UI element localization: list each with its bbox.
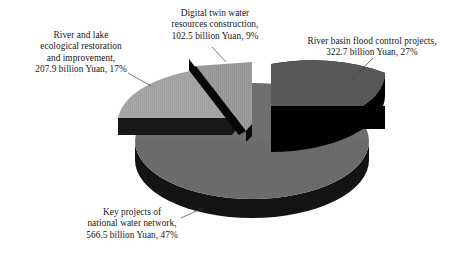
slice-label-key-projects: Key projects of national water network, … (50, 207, 214, 241)
slice-label-flood-control: River basin flood control projects, 322.… (286, 36, 458, 59)
leader-line-digital-twin (212, 47, 226, 62)
pie-chart: Digital twin water resources constructio… (0, 0, 461, 261)
slice-label-eco-restoration: River and lake ecological restoration an… (6, 30, 156, 76)
slice-label-digital-twin: Digital twin water resources constructio… (142, 8, 288, 42)
